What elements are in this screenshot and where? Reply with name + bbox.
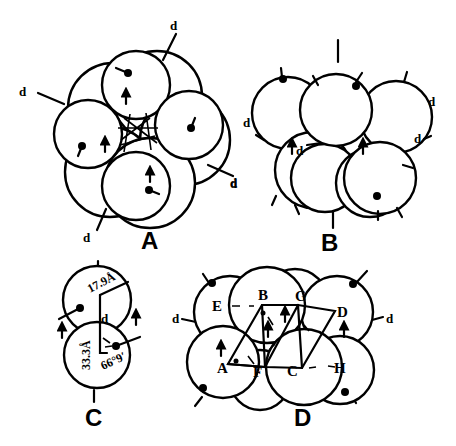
point-g-label: G: [295, 288, 307, 304]
point-e-label: E: [212, 298, 222, 314]
panel-a-title: A: [141, 227, 158, 254]
panel-c-title: C: [85, 404, 102, 431]
panel-a-d-label: d: [83, 230, 91, 245]
panel-b-title: B: [321, 229, 338, 256]
panel-d-title: D: [294, 404, 311, 431]
point-h-label: H: [334, 360, 346, 376]
figure-canvas: d d d d A d d d d d B: [0, 0, 456, 446]
panel-b: d d d d d B: [230, 40, 436, 256]
panel-c-d-label: d: [101, 311, 109, 326]
point-c-label: C: [287, 363, 298, 379]
panel-a-d-label: d: [19, 84, 27, 99]
panel-a-d-label: d: [170, 18, 178, 33]
point-f-label: F: [253, 364, 262, 380]
panel-d: A B C D E F G H d d D: [172, 267, 394, 431]
panel-b-d-label: d: [296, 143, 304, 158]
panel-b-d-label: d: [414, 131, 422, 146]
panel-a: d d d d A: [19, 18, 238, 254]
point-d-label: D: [337, 304, 348, 320]
panel-c: 17.9Å 33.3Å 66°9′ d C: [59, 261, 140, 431]
point-b-label: B: [258, 287, 268, 303]
height-label: 33.3Å: [79, 340, 93, 370]
panel-d-d-label: d: [386, 311, 394, 326]
panel-b-d-label: d: [243, 115, 251, 130]
point-a-label: A: [217, 360, 228, 376]
panel-b-d-label: d: [428, 94, 436, 109]
panel-b-d-label: d: [230, 175, 238, 190]
panel-d-d-label: d: [172, 311, 180, 326]
